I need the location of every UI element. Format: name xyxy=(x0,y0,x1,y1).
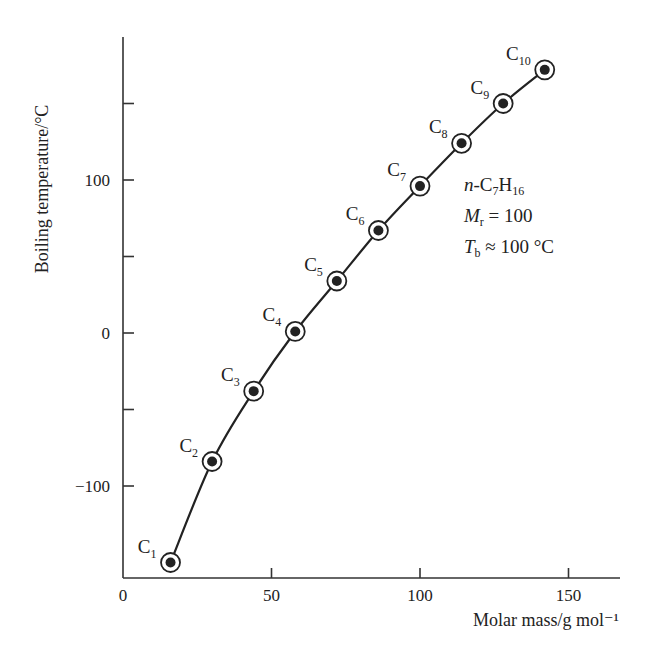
annotation-boiling-temp: Tb ≈ 100 °C xyxy=(464,237,554,259)
data-point-c5: C5 xyxy=(304,254,346,291)
point-label: C3 xyxy=(221,364,240,389)
point-label: C2 xyxy=(179,435,198,460)
formula-hydrogen-count: 16 xyxy=(512,184,524,198)
point-dot-icon xyxy=(540,65,550,75)
point-label: C1 xyxy=(138,536,157,561)
y-tick-label: 100 xyxy=(85,171,111,190)
y-tick-label: 0 xyxy=(102,324,111,343)
annotation-molar-mass: Mr = 100 xyxy=(464,206,533,228)
data-point-c10: C10 xyxy=(506,43,554,79)
boiling-temp-value: ≈ 100 °C xyxy=(481,236,554,257)
data-point-c7: C7 xyxy=(387,159,429,196)
data-point-c4: C4 xyxy=(263,304,305,341)
x-tick-label: 150 xyxy=(556,586,582,605)
point-label: C10 xyxy=(506,43,531,68)
y-tick-label: −100 xyxy=(75,477,110,496)
data-point-c9: C9 xyxy=(470,77,512,114)
point-label: C9 xyxy=(470,77,489,102)
data-points: C1C2C3C4C5C6C7C8C9C10 xyxy=(138,43,554,572)
molar-mass-symbol: M xyxy=(464,205,480,226)
x-tick-label: 100 xyxy=(407,586,433,605)
point-dot-icon xyxy=(415,181,425,191)
point-label: C8 xyxy=(429,116,448,141)
formula-carbon: -C xyxy=(474,174,493,195)
point-label: C6 xyxy=(346,203,365,228)
x-ticks: 050100150 xyxy=(119,568,582,605)
x-axis-label: Molar mass/g mol⁻¹ xyxy=(473,610,619,630)
data-point-c1: C1 xyxy=(138,536,180,573)
boiling-point-chart: 050100150 −1000100 C1C2C3C4C5C6C7C8C9C10… xyxy=(0,0,650,661)
boiling-temp-symbol: T xyxy=(464,236,475,257)
point-dot-icon xyxy=(373,225,383,235)
y-axis-label: Boiling temperature/°C xyxy=(32,105,52,274)
data-point-c8: C8 xyxy=(429,116,471,153)
data-point-c3: C3 xyxy=(221,364,263,401)
molar-mass-value: = 100 xyxy=(484,205,533,226)
formula-prefix: n xyxy=(464,174,474,195)
point-dot-icon xyxy=(457,138,467,148)
point-dot-icon xyxy=(166,558,176,568)
point-dot-icon xyxy=(249,386,259,396)
annotation-formula: n-C7H16 xyxy=(464,175,524,197)
x-tick-label: 0 xyxy=(119,586,128,605)
point-dot-icon xyxy=(290,326,300,336)
data-point-c2: C2 xyxy=(179,435,221,472)
data-point-c6: C6 xyxy=(346,203,388,240)
point-label: C5 xyxy=(304,254,323,279)
point-dot-icon xyxy=(332,276,342,286)
formula-hydrogen: H xyxy=(499,174,513,195)
x-tick-label: 50 xyxy=(263,586,280,605)
y-ticks: −1000100 xyxy=(75,104,134,497)
point-dot-icon xyxy=(207,457,217,467)
point-dot-icon xyxy=(498,99,508,109)
point-label: C4 xyxy=(263,304,282,329)
point-label: C7 xyxy=(387,159,406,184)
trend-curve xyxy=(171,70,545,563)
